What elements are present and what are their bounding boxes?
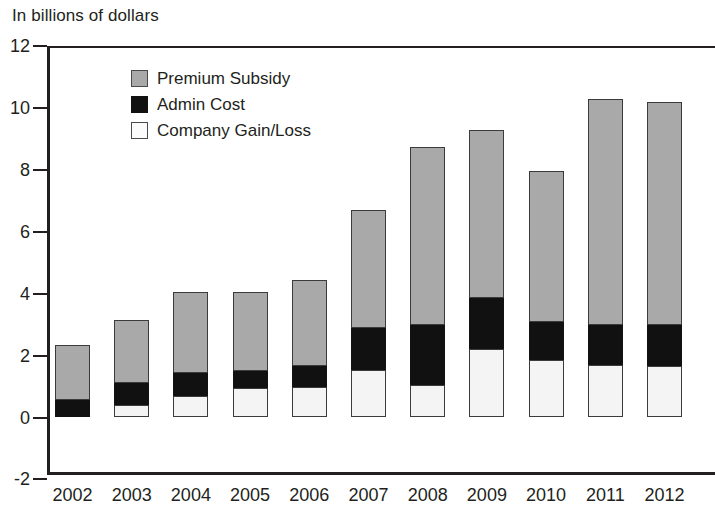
bar-2002: [55, 345, 90, 418]
bar-segment-company-gain-loss: [114, 405, 149, 417]
bar-segment-premium-subsidy: [233, 292, 268, 371]
y-axis-tick-label: 2: [0, 347, 30, 365]
bar-2010: [529, 171, 564, 417]
bar-2006: [292, 280, 327, 418]
legend-item: Company Gain/Loss: [131, 118, 311, 142]
company-gain-loss-swatch: [131, 122, 148, 139]
y-axis-tick-label: 4: [0, 285, 30, 303]
legend-item: Premium Subsidy: [131, 66, 311, 90]
y-axis-tick-label: 10: [0, 99, 30, 117]
bar-2007: [351, 210, 386, 417]
y-axis-tick: [33, 355, 47, 357]
bar-segment-premium-subsidy: [55, 345, 90, 401]
bar-2012: [647, 102, 682, 418]
bar-segment-company-gain-loss: [529, 360, 564, 417]
bar-segment-admin-cost: [529, 322, 564, 361]
x-axis-tick-label: 2004: [161, 486, 221, 504]
admin-cost-swatch: [131, 96, 148, 113]
bar-segment-premium-subsidy: [173, 292, 208, 372]
chart-legend: Premium SubsidyAdmin CostCompany Gain/Lo…: [131, 66, 311, 144]
x-axis-tick-label: 2009: [457, 486, 517, 504]
bar-2003: [114, 320, 149, 418]
bar-segment-premium-subsidy: [588, 99, 623, 325]
bar-segment-company-gain-loss: [410, 385, 445, 418]
bar-2005: [233, 292, 268, 417]
x-axis-tick-label: 2003: [102, 486, 162, 504]
bar-segment-company-gain-loss: [173, 396, 208, 418]
y-axis-tick-label: 0: [0, 409, 30, 427]
x-axis-tick-label: 2006: [279, 486, 339, 504]
bar-segment-admin-cost: [114, 383, 149, 405]
bar-2009: [469, 130, 504, 418]
y-axis-tick: [33, 107, 47, 109]
y-axis-tick: [33, 231, 47, 233]
bar-segment-admin-cost: [410, 325, 445, 385]
bar-segment-premium-subsidy: [351, 210, 386, 328]
bar-segment-admin-cost: [351, 328, 386, 370]
bar-segment-admin-cost: [647, 325, 682, 367]
bar-segment-company-gain-loss: [233, 388, 268, 417]
y-axis-tick: [33, 45, 47, 47]
bar-segment-premium-subsidy: [647, 102, 682, 325]
bar-2008: [410, 147, 445, 418]
x-axis-tick-label: 2008: [398, 486, 458, 504]
bar-segment-company-gain-loss: [292, 387, 327, 418]
bar-2004: [173, 292, 208, 417]
x-axis-tick-label: 2011: [575, 486, 635, 504]
bar-segment-admin-cost: [588, 325, 623, 365]
unit-label: In billions of dollars: [12, 6, 159, 26]
y-axis-tick-label: -2: [0, 470, 30, 488]
x-axis-tick-label: 2012: [635, 486, 695, 504]
bar-segment-admin-cost: [233, 371, 268, 388]
bar-segment-company-gain-loss: [351, 370, 386, 418]
bar-2011: [588, 99, 623, 418]
y-axis-tick: [33, 169, 47, 171]
bar-segment-premium-subsidy: [410, 147, 445, 325]
legend-item-label: Premium Subsidy: [157, 70, 290, 87]
premium-subsidy-swatch: [131, 70, 148, 87]
y-axis-tick-label: 12: [0, 37, 30, 55]
bar-segment-company-gain-loss: [647, 366, 682, 417]
bar-segment-admin-cost: [55, 400, 90, 417]
bar-segment-company-gain-loss: [469, 349, 504, 417]
x-axis-tick-label: 2005: [220, 486, 280, 504]
bar-segment-premium-subsidy: [469, 130, 504, 299]
x-axis-tick-label: 2002: [43, 486, 103, 504]
x-axis-tick-label: 2007: [339, 486, 399, 504]
y-axis-tick-label: 6: [0, 223, 30, 241]
bar-segment-premium-subsidy: [529, 171, 564, 321]
legend-item-label: Company Gain/Loss: [157, 122, 311, 139]
y-axis-tick-label: 8: [0, 161, 30, 179]
bar-segment-admin-cost: [292, 366, 327, 386]
bar-segment-premium-subsidy: [292, 280, 327, 367]
bar-segment-premium-subsidy: [114, 320, 149, 383]
legend-item: Admin Cost: [131, 92, 311, 116]
y-axis-tick: [33, 293, 47, 295]
bar-segment-company-gain-loss: [588, 365, 623, 418]
bar-segment-admin-cost: [469, 298, 504, 349]
y-axis-tick: [33, 478, 47, 480]
bar-segment-admin-cost: [173, 373, 208, 396]
y-axis-tick: [33, 417, 47, 419]
x-axis-tick-label: 2010: [516, 486, 576, 504]
legend-item-label: Admin Cost: [157, 96, 245, 113]
